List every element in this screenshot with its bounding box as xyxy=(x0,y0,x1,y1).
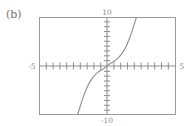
plot-area: 10 -10 -5 5 xyxy=(0,0,188,126)
x-axis-min-label: -5 xyxy=(28,62,36,71)
x-axis-max-label: 5 xyxy=(180,62,185,71)
figure-panel-b: (b) xyxy=(0,0,188,126)
y-axis-max-label: 10 xyxy=(102,8,112,17)
y-axis-min-label: -10 xyxy=(101,116,113,125)
